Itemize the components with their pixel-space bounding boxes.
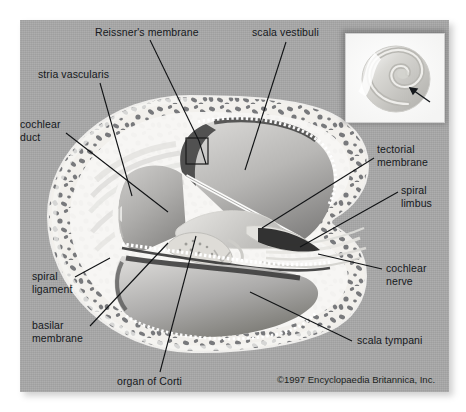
label-spiral-limbus-line1: spiral	[401, 184, 432, 197]
label-basilar-membrane-line2: membrane	[32, 332, 83, 345]
label-spiral-ligament-line2: ligament	[32, 283, 73, 296]
cochlea-spiral-shape	[362, 46, 430, 112]
label-organ-of-corti: organ of Corti	[117, 375, 182, 388]
label-reissners-membrane: Reissner's membrane	[95, 26, 199, 39]
label-cochlear-nerve-line2: nerve	[386, 275, 427, 288]
label-cochlear-nerve-line1: cochlear	[386, 262, 427, 275]
label-basilar-membrane-line1: basilar	[32, 319, 83, 332]
label-tectorial-membrane-line1: tectorial	[377, 143, 428, 156]
label-basilar-membrane: basilar membrane	[32, 319, 83, 344]
label-cochlear-duct: cochlear duct	[20, 118, 61, 143]
label-spiral-ligament-line1: spiral	[32, 270, 73, 283]
label-cochlear-duct-line2: duct	[20, 131, 61, 144]
label-cochlear-duct-line1: cochlear	[20, 118, 61, 131]
label-tectorial-membrane-line2: membrane	[377, 156, 428, 169]
label-spiral-limbus: spiral limbus	[401, 184, 432, 209]
label-tectorial-membrane: tectorial membrane	[377, 143, 428, 168]
label-scala-vestibuli: scala vestibuli	[252, 26, 319, 39]
cochlea-anatomy-figure: Reissner's membrane scala vestibuli stri…	[0, 0, 466, 412]
cochlea-spiral-inset	[345, 33, 445, 123]
label-spiral-limbus-line2: limbus	[401, 197, 432, 210]
copyright-notice: ©1997 Encyclopaedia Britannica, Inc.	[277, 374, 435, 385]
label-scala-tympani: scala tympani	[357, 334, 423, 347]
label-stria-vascularis: stria vascularis	[38, 68, 109, 81]
label-cochlear-nerve: cochlear nerve	[386, 262, 427, 287]
label-spiral-ligament: spiral ligament	[32, 270, 73, 295]
